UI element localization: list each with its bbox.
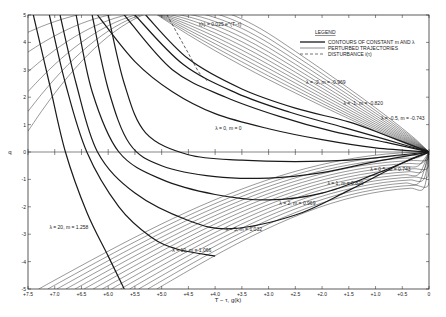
y-axis-label: q xyxy=(8,149,11,155)
y-tick-label: -3 xyxy=(22,231,27,237)
x-tick-label: +2.0 xyxy=(317,291,327,297)
chart: +7.5+7.0+6.5+6.0+5.5+5.0+4.5+4.0+3.5+3.0… xyxy=(0,0,446,317)
curve-annotation: λ = 2, m = 0.969 xyxy=(279,200,315,206)
curve-annotation: i(τ) = 0.025 e^(T−τ) xyxy=(199,21,242,27)
legend-title: LEGEND xyxy=(315,29,336,35)
curve-annotation: λ = -2, m = -0.969 xyxy=(306,79,346,85)
y-tick-label: 1 xyxy=(23,122,26,128)
legend-item-disturbance: DISTURBANCE i(τ) xyxy=(328,51,372,57)
x-tick-label: +7.0 xyxy=(50,291,60,297)
y-tick-label: 5 xyxy=(23,12,26,18)
x-tick-label: +0.5 xyxy=(397,291,407,297)
x-tick-label: 0 xyxy=(428,291,431,297)
y-tick-label: 0 xyxy=(23,149,26,155)
y-tick-label: -4 xyxy=(22,259,27,265)
x-tick-label: +6.5 xyxy=(77,291,87,297)
contour-curve xyxy=(108,15,429,162)
x-tick-label: +6.0 xyxy=(103,291,113,297)
y-tick-label: -5 xyxy=(22,286,27,292)
x-tick-label: +5.5 xyxy=(130,291,140,297)
y-tick-label: -1 xyxy=(22,176,27,182)
y-tick-label: 4 xyxy=(23,39,26,45)
curve-annotation: λ = 1, m = 0.820 xyxy=(327,180,363,186)
curve-annotation: λ = 0.5, m = 0.743 xyxy=(370,166,411,172)
x-tick-label: +5.0 xyxy=(157,291,167,297)
x-tick-label: +3.0 xyxy=(264,291,274,297)
contour-curve xyxy=(49,15,215,256)
legend: LEGEND CONTOURS OF CONSTANT m AND λ PERT… xyxy=(300,29,415,57)
curve-annotation: λ = 10, m = 1.066 xyxy=(172,247,211,253)
x-tick-label: +1.0 xyxy=(371,291,381,297)
curve-annotation: λ = 20, m = 1.258 xyxy=(49,224,88,230)
x-tick-label: +4.5 xyxy=(183,291,193,297)
curve-annotation: λ = -0.5, m = -0.743 xyxy=(381,115,425,121)
x-tick-label: +1.5 xyxy=(344,291,354,297)
x-axis-label: T − τ, g(k) xyxy=(215,297,241,303)
curve-annotation: λ = 0, m = 0 xyxy=(215,125,242,131)
contour-curve xyxy=(98,15,429,152)
curve-annotation: λ = 5, m = 1.032 xyxy=(226,226,262,232)
y-tick-label: 2 xyxy=(23,94,26,100)
curve-annotation: λ = -1, m = -0.820 xyxy=(343,100,383,106)
x-tick-label: +2.5 xyxy=(290,291,300,297)
y-tick-label: 3 xyxy=(23,67,26,73)
y-tick-label: -2 xyxy=(22,204,27,210)
